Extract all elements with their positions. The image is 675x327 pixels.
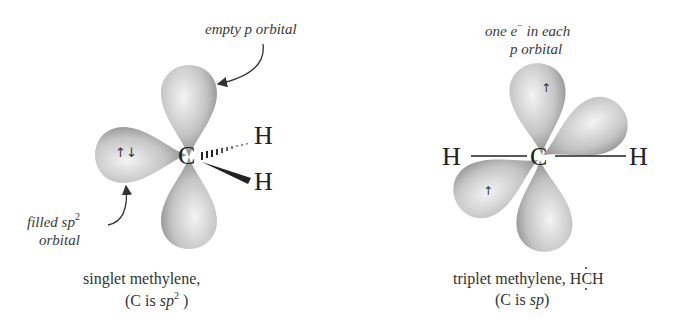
hybridization-sp: sp [160,292,174,309]
triplet-hybridization: (C is sp) [495,292,549,308]
center-carbon-left: C [178,143,195,169]
filled-sp2-text: filled sp [27,214,75,230]
hydrogen-upper-left: H [254,123,273,149]
hydrogen-left: H [442,144,461,170]
electron-spin-upper: ↑ [541,82,551,94]
hybridization-prefix: (C is [125,292,160,309]
hydrogen-right: H [629,144,648,170]
in-each-text: in each [523,23,570,39]
hashed-bond-upper-h [202,143,247,160]
empty-p-orbital-arrow [218,44,263,84]
formula-c: C [581,270,592,287]
hybridization-suffix: ) [179,292,188,309]
electron-pair-spins: ↑↓ [115,146,137,159]
triplet-caption-text: triplet methylene, [453,270,570,287]
empty-p-orbital-label: empty p orbital [205,22,297,37]
electron-charge-sup: − [517,20,523,31]
filled-sp2-orbital-label: filled sp2 [27,213,80,230]
formula-h-left: H [570,270,582,287]
wedge-bond-lower-h [202,162,251,184]
triplet-caption: triplet methylene, HCH [453,271,604,287]
electron-spin-lower: ↑ [483,185,493,197]
formula-h-right: H [592,270,604,287]
one-electron-label-line1: one e− in each [485,22,570,39]
p-orbital-bottom-lobe [161,157,217,249]
singlet-caption: singlet methylene, [83,271,200,287]
filled-sp2-orbital-arrow [108,186,126,225]
filled-sp2-orbital-lobe [95,127,187,183]
hybridization-suffix: ) [544,291,549,308]
singlet-hybridization: (C is sp2 ) [125,292,188,309]
filled-sp2-superscript: 2 [75,211,80,222]
hybridization-prefix: (C is [495,291,530,308]
hybridization-sup: 2 [174,290,179,301]
one-electron-label-line2: p orbital [510,42,562,57]
filled-sp2-orbital-label-line2: orbital [39,233,80,248]
center-carbon-right: C [530,144,547,170]
formula-c-dotted: C [581,271,592,287]
hybridization-sp: sp [530,291,544,308]
hydrogen-lower-left: H [254,169,273,195]
one-e-text: one e [485,23,517,39]
